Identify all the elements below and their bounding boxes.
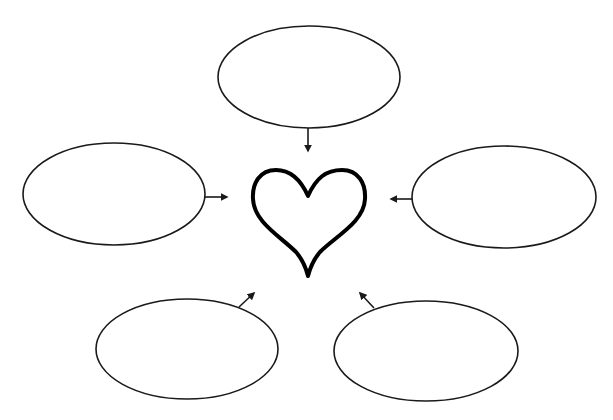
arrow-up-left-icon xyxy=(360,293,374,308)
bubble-bottom-left[interactable] xyxy=(96,299,278,399)
bubble-left[interactable] xyxy=(23,143,205,245)
bubble-bottom-right-ellipse[interactable] xyxy=(334,301,518,401)
heart-bubble-map xyxy=(0,0,613,420)
bubble-top-ellipse[interactable] xyxy=(218,26,400,128)
bubble-right[interactable] xyxy=(412,146,596,248)
bubble-bottom-right[interactable] xyxy=(334,301,518,401)
bubble-bottom-left-ellipse[interactable] xyxy=(96,299,278,399)
bubble-left-ellipse[interactable] xyxy=(23,143,205,245)
bubble-top[interactable] xyxy=(218,26,400,128)
heart-outline-icon xyxy=(253,170,365,276)
bubble-right-ellipse[interactable] xyxy=(412,146,596,248)
arrow-up-right-icon xyxy=(239,293,254,307)
center-heart xyxy=(253,170,365,276)
